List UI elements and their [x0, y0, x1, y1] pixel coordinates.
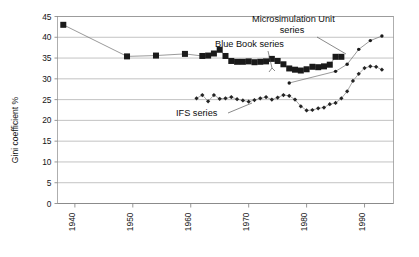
data-point-bluebook-1986 — [338, 54, 344, 60]
data-point-bluebook-1977 — [286, 65, 292, 71]
data-point-bluebook-1978 — [292, 67, 298, 73]
y-tick-label-5: 5 — [47, 178, 52, 188]
y-axis-title: Gini coefficient % — [10, 97, 20, 164]
y-tick-label-10: 10 — [42, 157, 52, 167]
y-tick-label-15: 15 — [42, 136, 52, 146]
y-tick-label-20: 20 — [42, 115, 52, 125]
data-point-bluebook-1981 — [309, 64, 315, 70]
data-point-bluebook-1968 — [234, 59, 240, 65]
annotation-msu-line2: series — [280, 25, 305, 35]
data-point-bluebook-1966 — [223, 53, 229, 59]
data-point-bluebook-1954 — [153, 53, 159, 59]
y-tick-label-0: 0 — [47, 199, 52, 209]
data-point-bluebook-1967 — [228, 58, 234, 64]
data-point-msu-1985 — [334, 70, 337, 73]
data-point-bluebook-1963 — [205, 53, 211, 59]
data-point-msu-1977 — [288, 81, 291, 84]
data-point-bluebook-1959 — [182, 51, 188, 57]
chart-canvas: 051015202530354045 194019501960197019801… — [0, 0, 419, 257]
annotation-bluebook-label: Blue Book series — [215, 39, 284, 49]
data-point-bluebook-1971 — [251, 59, 257, 65]
data-point-bluebook-1972 — [257, 59, 263, 65]
y-tick-label-40: 40 — [42, 32, 52, 42]
x-tick-label-1960: 1960 — [183, 212, 193, 231]
data-point-msu-1989 — [357, 48, 360, 51]
data-point-bluebook-1964 — [211, 50, 217, 56]
data-point-bluebook-1984 — [327, 62, 333, 68]
y-tick-label-35: 35 — [42, 53, 52, 63]
x-tick-label-1940: 1940 — [67, 212, 77, 231]
data-point-bluebook-1973 — [263, 58, 269, 64]
x-tick-label-1980: 1980 — [299, 212, 309, 231]
data-point-bluebook-1975 — [275, 58, 281, 64]
data-point-bluebook-1980 — [304, 66, 310, 72]
data-point-bluebook-1969 — [240, 59, 246, 65]
y-tick-label-30: 30 — [42, 74, 52, 84]
data-point-bluebook-1985 — [333, 54, 339, 60]
data-point-msu-1987 — [345, 63, 348, 66]
data-point-bluebook-1970 — [246, 58, 252, 64]
data-point-bluebook-1976 — [280, 61, 286, 67]
gini-coefficient-chart: 051015202530354045 194019501960197019801… — [0, 0, 419, 257]
y-tick-label-45: 45 — [42, 12, 52, 22]
data-point-bluebook-1982 — [315, 64, 321, 70]
data-point-bluebook-1949 — [124, 53, 130, 59]
data-point-msu-1993 — [380, 34, 383, 37]
data-point-bluebook-1962 — [199, 53, 205, 59]
x-tick-label-1990: 1990 — [357, 212, 367, 231]
data-point-msu-1991 — [369, 39, 372, 42]
data-point-bluebook-1938 — [60, 22, 66, 28]
x-tick-label-1970: 1970 — [241, 212, 251, 231]
annotation-msu-line1: Microsimulation Unit — [252, 14, 335, 24]
annotation-ifs-label: IFS series — [176, 108, 218, 118]
data-point-bluebook-1983 — [321, 63, 327, 69]
x-tick-label-1950: 1950 — [125, 212, 135, 231]
y-tick-label-25: 25 — [42, 95, 52, 105]
data-point-bluebook-1979 — [298, 68, 304, 74]
